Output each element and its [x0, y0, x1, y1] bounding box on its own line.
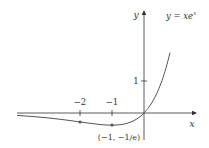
function-label: y = xex — [165, 10, 197, 21]
y-axis-label: y — [132, 10, 139, 20]
chart-canvas: −2 −1 1 x y (−1, −1/e) y = xex — [0, 0, 209, 148]
minimum-point-label: (−1, −1/e) — [98, 133, 140, 142]
point-minimum — [110, 123, 113, 126]
function-label-exponent: x — [193, 10, 197, 16]
function-label-base: y = xe — [165, 11, 193, 21]
point-x-minus-2 — [78, 120, 81, 123]
y-tick-label-1: 1 — [133, 76, 138, 86]
function-curve — [17, 53, 170, 126]
x-tick-label-minus-1: −1 — [106, 97, 119, 107]
x-axis-label: x — [189, 119, 194, 129]
x-tick-label-minus-2: −2 — [74, 97, 87, 107]
